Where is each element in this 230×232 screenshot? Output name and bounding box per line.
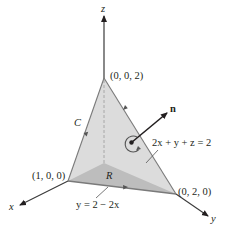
y-axis-label: y <box>210 213 216 224</box>
plane-equation-label: 2x + y + z = 2 <box>152 137 211 148</box>
x-intercept-label: (1, 0, 0) <box>32 170 66 182</box>
boundary-leader-line <box>96 187 108 198</box>
region-r-label: R <box>105 170 113 181</box>
z-axis-label: z <box>100 3 105 14</box>
normal-n-label: n <box>170 103 176 114</box>
curve-c-label: C <box>74 117 82 128</box>
y-axis <box>176 194 208 216</box>
boundary-line-label: y = 2 − 2x <box>76 199 120 210</box>
y-intercept-label: (0, 2, 0) <box>178 186 212 198</box>
x-axis-label: x <box>8 201 14 212</box>
x-axis <box>20 181 68 205</box>
surface-integral-diagram: z x y (0, 0, 2) (1, 0, 0) (0, 2, 0) C R … <box>0 0 230 232</box>
apex-label: (0, 0, 2) <box>110 70 144 82</box>
curve-arrow-right <box>123 105 128 110</box>
